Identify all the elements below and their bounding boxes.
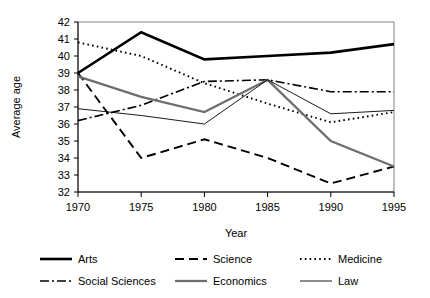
x-tick-label: 1990 [319,201,343,213]
line-chart: 3233343536373839404142 19701975198019851… [0,0,430,298]
y-tick-label: 32 [58,186,70,198]
chart-container: 3233343536373839404142 19701975198019851… [0,0,430,298]
legend-label: Medicine [338,253,382,265]
legend-item: Arts [40,253,98,265]
y-tick-label: 33 [58,169,70,181]
chart-legend: ArtsScienceMedicineSocial SciencesEconom… [40,253,382,287]
y-tick-label: 39 [58,67,70,79]
legend-item: Social Sciences [40,275,156,287]
x-tick-label: 1985 [255,201,279,213]
x-tick-label: 1975 [129,201,153,213]
y-tick-label: 35 [58,135,70,147]
legend-label: Science [213,253,252,265]
legend-label: Arts [78,253,98,265]
y-tick-label: 38 [58,84,70,96]
legend-item: Medicine [300,253,382,265]
y-axis-tick-labels: 3233343536373839404142 [58,16,70,198]
y-tick-label: 41 [58,33,70,45]
y-tick-label: 40 [58,50,70,62]
legend-item: Economics [175,275,267,287]
x-tick-label: 1995 [382,201,406,213]
x-axis-tick-labels: 197019751980198519901995 [66,201,406,213]
x-tick-label: 1980 [192,201,216,213]
legend-label: Law [338,275,358,287]
y-tick-label: 37 [58,101,70,113]
legend-item: Law [300,275,358,287]
legend-label: Social Sciences [78,275,156,287]
legend-item: Science [175,253,252,265]
plot-area-background [78,22,394,192]
legend-label: Economics [213,275,267,287]
y-tick-label: 34 [58,152,70,164]
y-tick-label: 36 [58,118,70,130]
x-axis-ticks [78,192,394,197]
y-axis-title: Average age [10,76,22,138]
x-tick-label: 1970 [66,201,90,213]
y-tick-label: 42 [58,16,70,28]
x-axis-title: Year [225,227,248,239]
y-axis-ticks [74,22,78,192]
